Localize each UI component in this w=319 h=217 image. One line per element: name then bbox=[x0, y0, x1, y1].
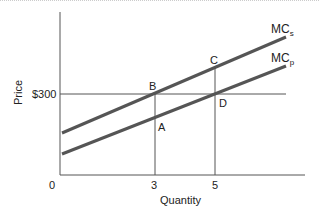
x-tick-5: 5 bbox=[212, 179, 218, 191]
mcp-curve bbox=[62, 66, 286, 154]
x-tick-3: 3 bbox=[151, 179, 157, 191]
mcs-curve bbox=[62, 37, 286, 133]
mcs-label: MCs bbox=[271, 22, 294, 38]
x-axis-title: Quantity bbox=[160, 194, 201, 206]
point-c-label: C bbox=[210, 54, 218, 66]
point-d-label: D bbox=[219, 97, 227, 109]
y-axis-title: Price bbox=[12, 80, 24, 105]
mcp-label: MCp bbox=[271, 51, 295, 67]
price-tick-300: $300 bbox=[32, 88, 56, 100]
origin-label: 0 bbox=[49, 179, 55, 191]
point-a-label: A bbox=[158, 121, 166, 133]
point-b-label: B bbox=[149, 80, 156, 92]
chart: MCs MCp B A C D $300 0 3 5 Quantity Pric… bbox=[0, 0, 319, 217]
